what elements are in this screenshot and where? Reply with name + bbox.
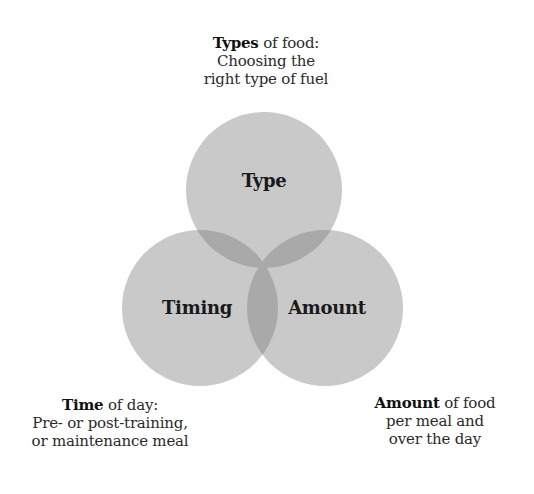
caption-amount-rest: of food: [440, 394, 496, 412]
caption-type-line3: right type of fuel: [166, 70, 366, 88]
caption-type: Types of food: Choosing the right type o…: [166, 34, 366, 88]
caption-timing-bold: Time: [62, 396, 103, 414]
caption-amount-line3: over the day: [350, 430, 520, 448]
circle-label-type: Type: [214, 170, 314, 191]
caption-type-line2: Choosing the: [166, 52, 366, 70]
circle-label-amount: Amount: [277, 297, 377, 318]
caption-timing: Time of day: Pre- or post-training, or m…: [0, 396, 220, 450]
caption-type-bold: Types: [213, 34, 259, 52]
circle-label-timing: Timing: [150, 297, 244, 318]
caption-amount-line1: Amount of food: [350, 394, 520, 412]
caption-amount-bold: Amount: [375, 394, 440, 412]
caption-timing-line2: Pre- or post-training,: [0, 414, 220, 432]
caption-amount: Amount of food per meal and over the day: [350, 394, 520, 448]
caption-timing-line1: Time of day:: [0, 396, 220, 414]
caption-amount-line2: per meal and: [350, 412, 520, 430]
caption-type-line1: Types of food:: [166, 34, 366, 52]
caption-type-rest: of food:: [259, 34, 320, 52]
caption-timing-line3: or maintenance meal: [0, 432, 220, 450]
caption-timing-rest: of day:: [103, 396, 158, 414]
